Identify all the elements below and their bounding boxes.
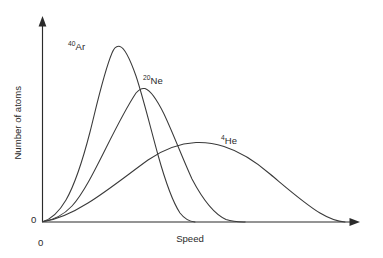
y-axis-title: Number of atoms (13, 75, 23, 171)
x-axis-arrowhead-icon (350, 218, 361, 226)
curve-ne-20 (43, 88, 246, 222)
curve-label-ar-40-mass: 40 (68, 40, 75, 47)
curve-label-ne-20: 20Ne (143, 76, 163, 86)
y-axis-arrowhead-icon (39, 16, 47, 27)
curve-label-he-4-symbol: He (225, 135, 237, 146)
curve-label-ar-40: 40Ar (68, 42, 85, 52)
plot-area (0, 0, 383, 258)
curve-label-ne-20-mass: 20 (143, 74, 150, 81)
curve-label-he-4: 4He (221, 136, 237, 146)
x-axis-origin-label: 0 (38, 238, 43, 248)
curve-label-he-4-mass: 4 (221, 134, 225, 141)
curve-ar-40 (43, 46, 196, 222)
curve-label-ne-20-symbol: Ne (150, 75, 162, 86)
x-axis-title: Speed (150, 234, 230, 244)
y-axis-origin-label: 0 (31, 215, 36, 225)
maxwell-boltzmann-distribution-figure: 40Ar 20Ne 4He Number of atoms Speed 0 0 (0, 0, 383, 258)
curve-label-ar-40-symbol: Ar (75, 41, 85, 52)
